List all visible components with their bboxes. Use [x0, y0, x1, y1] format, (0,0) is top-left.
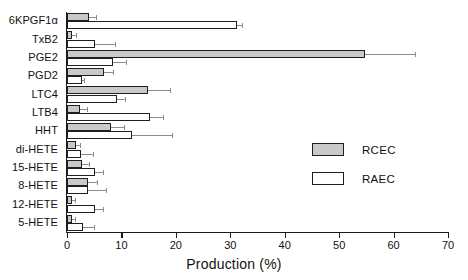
error-bar-cap: [75, 217, 76, 222]
x-axis-line: [66, 232, 449, 233]
bar-raec-2: [67, 58, 113, 66]
x-axis-tick-label: 0: [64, 240, 70, 251]
error-bar-line: [88, 190, 105, 191]
bar-chart: 6KPGF1αTxB2PGE2PGD2LTC4LTB4HHTdi-HETE15-…: [0, 0, 468, 280]
error-bar-cap: [124, 125, 125, 130]
y-axis-label: LTC4: [32, 89, 58, 100]
y-axis-label: PGD2: [28, 70, 58, 81]
error-bar-cap: [242, 23, 243, 28]
bar-rcec-3: [67, 68, 104, 76]
error-bar-cap: [87, 107, 88, 112]
y-axis-label: LTB4: [32, 107, 58, 118]
bar-raec-11: [67, 223, 83, 231]
error-bar-cap: [106, 188, 107, 193]
error-bar-cap: [89, 162, 90, 167]
bar-raec-7: [67, 150, 81, 158]
legend-label: RAEC: [362, 173, 395, 185]
x-axis-tick: [121, 233, 122, 238]
bar-rcec-7: [67, 141, 76, 149]
bar-raec-8: [67, 168, 95, 176]
error-bar-cap: [103, 170, 104, 175]
x-axis-tick-label: 20: [170, 240, 182, 251]
error-bar-line: [104, 72, 113, 73]
y-axis-label: di-HETE: [16, 144, 58, 155]
y-axis-label: 12-HETE: [12, 199, 58, 210]
bar-rcec-9: [67, 178, 88, 186]
error-bar-line: [95, 172, 104, 173]
y-axis-label: 15-HETE: [12, 162, 58, 173]
y-axis-label: 8-HETE: [18, 180, 58, 191]
error-bar-cap: [96, 15, 97, 20]
y-axis-label: PGE2: [28, 52, 58, 63]
error-bar-cap: [115, 42, 116, 47]
bar-raec-4: [67, 95, 117, 103]
error-bar-line: [88, 182, 97, 183]
x-axis-tick: [230, 233, 231, 238]
error-bar-line: [89, 17, 96, 18]
x-axis-tick-label: 30: [224, 240, 236, 251]
error-bar-cap: [125, 97, 126, 102]
chart-legend: RCECRAEC: [312, 143, 396, 201]
error-bar-cap: [103, 207, 104, 212]
error-bar-cap: [93, 152, 94, 157]
bar-rcec-4: [67, 86, 148, 94]
x-axis-tick: [394, 233, 395, 238]
x-axis-title: Production (%): [0, 256, 468, 272]
error-bar-line: [132, 135, 172, 136]
bar-raec-9: [67, 186, 88, 194]
y-axis-label: HHT: [35, 125, 58, 136]
bar-rcec-5: [67, 105, 80, 113]
error-bar-cap: [415, 52, 416, 57]
error-bar-cap: [84, 78, 85, 83]
error-bar-line: [95, 44, 115, 45]
error-bar-cap: [76, 33, 77, 38]
bar-rcec-8: [67, 160, 82, 168]
legend-label: RCEC: [362, 144, 396, 156]
x-axis-tick: [176, 233, 177, 238]
error-bar-cap: [126, 60, 127, 65]
x-axis-tick: [285, 233, 286, 238]
bar-raec-3: [67, 76, 82, 84]
y-axis-label: TxB2: [32, 34, 58, 45]
error-bar-cap: [97, 180, 98, 185]
error-bar-cap: [170, 88, 171, 93]
bar-rcec-0: [67, 13, 89, 21]
x-axis-tick-label: 50: [333, 240, 345, 251]
error-bar-cap: [75, 198, 76, 203]
bar-raec-5: [67, 113, 150, 121]
legend-swatch-rcec: [312, 143, 344, 156]
error-bar-line: [117, 99, 125, 100]
bar-raec-10: [67, 205, 95, 213]
legend-item-rcec: RCEC: [312, 143, 396, 156]
y-axis-labels: 6KPGF1αTxB2PGE2PGD2LTC4LTB4HHTdi-HETE15-…: [0, 12, 62, 232]
error-bar-cap: [163, 115, 164, 120]
bar-rcec-6: [67, 123, 111, 131]
error-bar-line: [81, 154, 93, 155]
x-axis-tick-label: 60: [387, 240, 399, 251]
bar-raec-6: [67, 131, 132, 139]
x-axis-tick-label: 40: [279, 240, 291, 251]
x-axis-tick: [448, 233, 449, 238]
legend-item-raec: RAEC: [312, 172, 396, 185]
legend-swatch-raec: [312, 172, 344, 185]
error-bar-line: [150, 117, 163, 118]
bar-raec-0: [67, 21, 237, 29]
x-axis-tick: [339, 233, 340, 238]
error-bar-cap: [94, 225, 95, 230]
error-bar-line: [365, 54, 415, 55]
bar-raec-1: [67, 40, 95, 48]
error-bar-line: [148, 90, 170, 91]
y-axis-label: 5-HETE: [18, 217, 58, 228]
bar-rcec-2: [67, 50, 365, 58]
error-bar-cap: [113, 70, 114, 75]
error-bar-line: [83, 227, 94, 228]
x-axis-tick-label: 70: [442, 240, 454, 251]
error-bar-line: [95, 209, 103, 210]
x-axis-tick-label: 10: [115, 240, 127, 251]
error-bar-cap: [172, 133, 173, 138]
x-axis-tick: [67, 233, 68, 238]
error-bar-line: [113, 62, 126, 63]
error-bar-cap: [80, 143, 81, 148]
y-axis-label: 6KPGF1α: [9, 15, 58, 26]
error-bar-line: [111, 127, 125, 128]
